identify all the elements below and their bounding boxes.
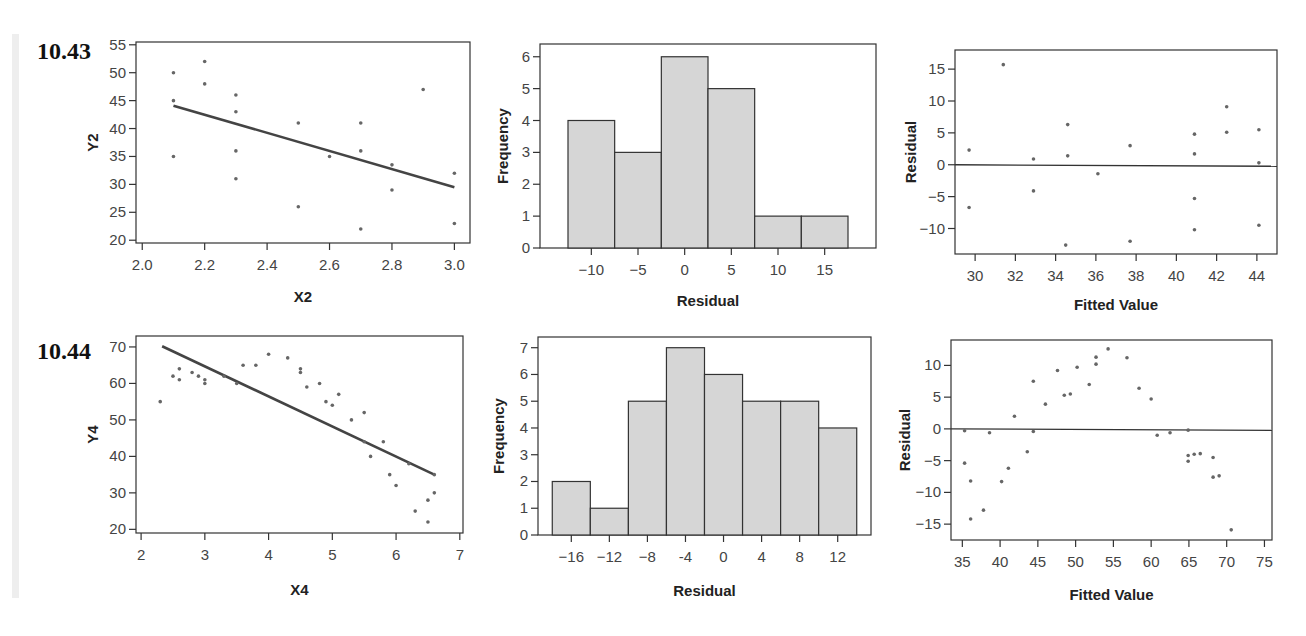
data-point xyxy=(1062,393,1066,397)
x-tick-label: 70 xyxy=(1218,553,1235,570)
x-tick-label: 40 xyxy=(992,553,1009,570)
y-axis-title: Residual xyxy=(896,409,913,472)
x-tick-label: 55 xyxy=(1105,553,1122,570)
data-point xyxy=(1186,428,1190,432)
data-point xyxy=(1094,362,1098,366)
x-tick-label: 35 xyxy=(954,553,971,570)
data-point xyxy=(1094,355,1098,359)
data-point xyxy=(1211,475,1215,479)
data-point xyxy=(1198,452,1202,456)
x-tick-label: 50 xyxy=(1067,553,1084,570)
x-axis-title: Fitted Value xyxy=(1069,586,1153,603)
data-point xyxy=(1007,466,1011,470)
y-tick-label: −5 xyxy=(924,452,941,469)
data-point xyxy=(1186,459,1190,463)
data-point xyxy=(963,429,967,433)
residual-vs-fitted-10-44: 354045505560657075−15−10−50510Fitted Val… xyxy=(0,0,1306,636)
data-point xyxy=(1155,433,1159,437)
plot-frame xyxy=(951,340,1272,540)
y-tick-label: 0 xyxy=(933,420,941,437)
data-point xyxy=(969,479,973,483)
data-point xyxy=(1032,430,1036,434)
data-point xyxy=(1168,431,1172,435)
x-tick-label: 65 xyxy=(1181,553,1198,570)
data-point xyxy=(1149,397,1153,401)
data-point xyxy=(1025,450,1029,454)
x-tick-label: 60 xyxy=(1143,553,1160,570)
data-point xyxy=(1186,454,1190,458)
y-tick-label: −15 xyxy=(916,515,941,532)
data-point xyxy=(1056,369,1060,373)
data-point xyxy=(1211,456,1215,460)
data-point xyxy=(969,517,973,521)
data-point xyxy=(1069,392,1073,396)
x-tick-label: 75 xyxy=(1256,553,1273,570)
x-tick-label: 45 xyxy=(1030,553,1047,570)
data-point xyxy=(988,431,992,435)
y-tick-label: −10 xyxy=(916,483,941,500)
data-point xyxy=(1032,379,1036,383)
y-tick-label: 10 xyxy=(924,356,941,373)
data-point xyxy=(1000,480,1004,484)
data-point xyxy=(1013,414,1017,418)
data-point xyxy=(1125,356,1129,360)
data-point xyxy=(1087,383,1091,387)
zero-reference-line xyxy=(951,429,1272,431)
y-tick-label: 5 xyxy=(933,388,941,405)
data-point xyxy=(1075,366,1079,370)
data-point xyxy=(982,508,986,512)
data-point xyxy=(1137,386,1141,390)
data-point xyxy=(1106,347,1110,351)
data-point xyxy=(1192,452,1196,456)
data-point xyxy=(1044,402,1048,406)
data-point xyxy=(1217,474,1221,478)
data-point xyxy=(1229,528,1233,532)
data-point xyxy=(963,461,967,465)
